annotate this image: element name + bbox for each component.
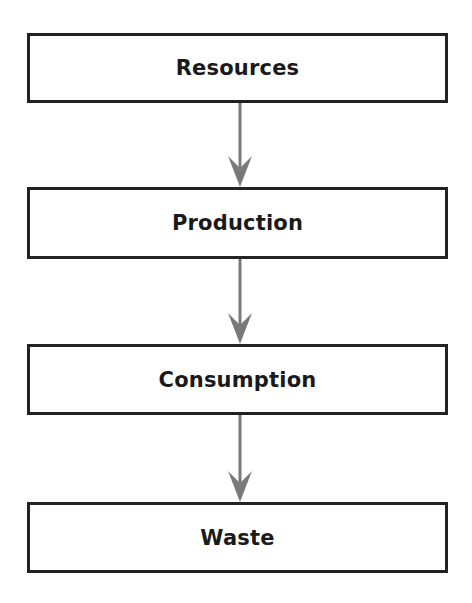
node-label: Production bbox=[172, 211, 303, 235]
node-production: Production bbox=[27, 187, 448, 259]
node-label: Resources bbox=[176, 56, 300, 80]
arrow-consumption-to-waste bbox=[228, 414, 252, 502]
arrow-production-to-consumption bbox=[228, 258, 252, 344]
node-label: Waste bbox=[200, 526, 274, 550]
node-resources: Resources bbox=[27, 33, 448, 103]
arrow-resources-to-production bbox=[228, 102, 252, 187]
node-consumption: Consumption bbox=[27, 344, 448, 415]
node-waste: Waste bbox=[27, 502, 448, 573]
node-label: Consumption bbox=[159, 368, 317, 392]
